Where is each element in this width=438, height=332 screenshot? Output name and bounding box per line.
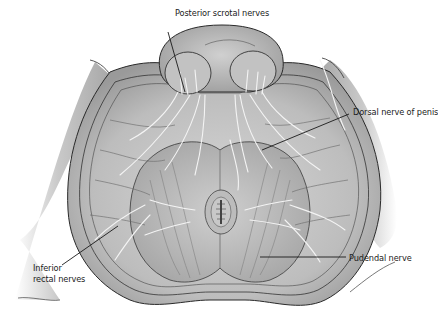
gluteal-region: [130, 142, 310, 282]
label-dorsal-nerve-of-penis: Dorsal nerve of penis: [353, 107, 438, 118]
label-inferior-line1: Inferior: [33, 263, 85, 274]
label-posterior-scrotal-nerves: Posterior scrotal nerves: [175, 8, 269, 19]
anus: [205, 190, 237, 234]
label-pudendal-nerve: Pudendal nerve: [349, 253, 412, 264]
label-inferior-line2: rectal nerves: [33, 274, 85, 285]
scrotum: [159, 25, 283, 94]
label-inferior-rectal-nerves: Inferior rectal nerves: [33, 263, 85, 285]
